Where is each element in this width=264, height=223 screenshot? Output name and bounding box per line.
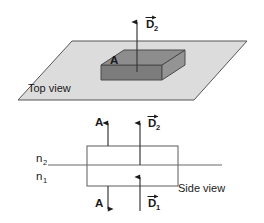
side-view-caption: Side view <box>178 182 225 194</box>
index-upper-subscript: 2 <box>43 158 47 167</box>
gaussian-pillbox <box>87 146 178 186</box>
flux-label-side-up-subscript: 2 <box>156 123 160 132</box>
index-upper-label: n <box>36 152 42 164</box>
optics-figure: A D 2 Top view n 2 n 1 A <box>0 0 264 223</box>
flux-label-top-subscript: 2 <box>154 24 158 33</box>
area-label-side-down: A <box>95 197 103 209</box>
side-view-group: n 2 n 1 A D 2 A D 1 Side view <box>36 116 225 212</box>
index-lower-subscript: 1 <box>43 176 47 185</box>
top-view-group: A D 2 Top view <box>18 18 247 101</box>
flux-label-side-down-subscript: 1 <box>156 203 160 212</box>
area-label-top: A <box>110 54 118 66</box>
top-view-caption: Top view <box>28 82 71 94</box>
index-lower-label: n <box>36 170 42 182</box>
slab-front-face <box>101 65 162 80</box>
figure-canvas: A D 2 Top view n 2 n 1 A <box>0 0 264 223</box>
area-label-side-up: A <box>95 116 103 128</box>
